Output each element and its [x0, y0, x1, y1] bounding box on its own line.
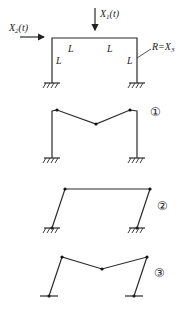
mode-2: ②	[43, 187, 168, 233]
mode-1-shape	[52, 110, 137, 158]
node	[63, 187, 66, 190]
beam-length-label-right: L	[106, 43, 113, 54]
node	[55, 108, 58, 111]
fixed-support-right	[128, 83, 145, 88]
r-leader-line	[137, 49, 151, 58]
node	[94, 122, 97, 125]
r-label: R=X3	[151, 41, 175, 54]
mode-2-label: ②	[157, 199, 168, 213]
node	[60, 255, 63, 258]
load-x2-label: X2(t)	[8, 22, 29, 35]
frame-diagram: X1(t) X2(t) R=X3 L L L L	[0, 0, 180, 309]
node	[128, 108, 131, 111]
node	[145, 255, 148, 258]
fixed-support-left	[43, 158, 60, 163]
mode-3-label: ③	[154, 266, 165, 280]
beam-length-label-left: L	[67, 43, 74, 54]
mode-2-shape	[52, 189, 150, 228]
node	[100, 267, 103, 270]
node	[148, 187, 151, 190]
original-frame: X1(t) X2(t) R=X3 L L L L	[8, 8, 175, 88]
mode-1: ①	[43, 105, 161, 163]
mode-3-shape	[49, 257, 147, 296]
fixed-support-right	[128, 158, 145, 163]
portal-frame	[52, 38, 137, 83]
mode-1-label: ①	[150, 105, 161, 119]
column-length-label-right: L	[126, 55, 133, 66]
fixed-support-left	[43, 83, 60, 88]
column-length-label-left: L	[55, 55, 62, 66]
load-x1-label: X1(t)	[99, 8, 120, 21]
mode-3: ③	[40, 255, 165, 297]
